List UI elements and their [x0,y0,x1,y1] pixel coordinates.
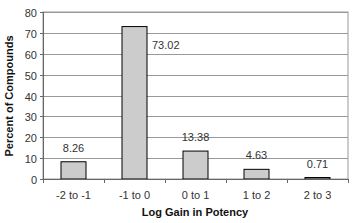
y-tick-label: 70 [25,28,37,40]
bar [305,178,330,179]
bar [122,27,147,179]
data-label: 0.71 [307,158,328,170]
x-axis-title: Log Gain in Potency [142,206,249,218]
bar [61,162,86,179]
x-tick-label: 2 to 3 [304,189,332,201]
bar [244,169,269,179]
bars: 8.2673.0213.384.630.71 [61,27,330,179]
data-label: 8.26 [63,142,84,154]
x-tick-label: -2 to -1 [56,189,91,201]
bar-chart: 8.2673.0213.384.630.71 01020304050607080… [0,0,354,223]
data-label: 4.63 [246,149,267,161]
y-tick-label: 80 [25,7,37,19]
y-tick-label: 0 [31,174,37,186]
y-axis-title: Percent of Compounds [3,35,15,156]
data-label: 13.38 [182,131,210,143]
y-tick-label: 20 [25,132,37,144]
y-tick-label: 10 [25,153,37,165]
bar [183,151,208,179]
y-tick-label: 40 [25,91,37,103]
x-tick-label: 0 to 1 [182,189,210,201]
y-tick-label: 60 [25,49,37,61]
y-tick-label: 50 [25,70,37,82]
data-label: 73.02 [152,39,180,51]
y-tick-label: 30 [25,111,37,123]
x-tick-label: 1 to 2 [243,189,271,201]
x-tick-label: -1 to 0 [119,189,150,201]
